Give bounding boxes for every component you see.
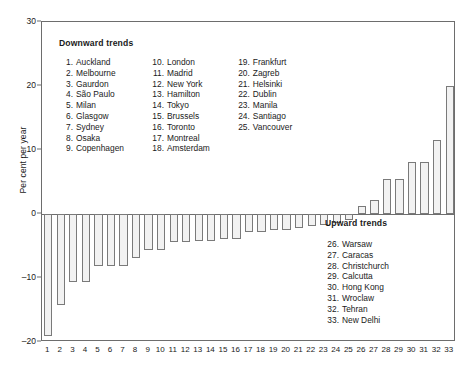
legend-item-label: Tokyo	[167, 100, 189, 110]
bar	[144, 214, 152, 250]
bar	[420, 162, 428, 214]
legend-item-label: Manila	[253, 100, 278, 110]
bar	[220, 214, 228, 239]
legend-item-number: 28.	[325, 261, 339, 272]
legend-item: 8.Osaka	[59, 133, 124, 144]
legend-upward-trends: Upward trends 26.Warsaw27.Caracas28.Chri…	[325, 218, 389, 325]
legend-item-number: 16.	[150, 122, 164, 133]
bar	[195, 214, 203, 241]
legend-item: 22.Dublin	[236, 89, 292, 100]
bar	[232, 214, 240, 239]
y-tick-label: 10	[0, 144, 36, 154]
legend-item-number: 33.	[325, 315, 339, 326]
x-tick-label: 11	[169, 345, 177, 354]
legend-item-number: 15.	[150, 111, 164, 122]
bar	[383, 179, 391, 214]
x-tick-label: 10	[156, 345, 165, 354]
legend-item: 13.Hamilton	[150, 89, 210, 100]
legend-item: 25.Vancouver	[236, 122, 292, 133]
x-tick-label: 31	[419, 345, 428, 354]
legend-item-number: 26.	[325, 239, 339, 250]
legend-item-number: 6.	[59, 111, 73, 122]
y-tick-label: –10	[0, 272, 36, 282]
legend-item: 4.São Paulo	[59, 89, 124, 100]
legend-item-number: 29.	[325, 271, 339, 282]
legend-item-label: Santiago	[253, 111, 286, 121]
bar	[170, 214, 178, 242]
x-tick-label: 17	[244, 345, 253, 354]
legend-item-number: 19.	[236, 57, 250, 68]
bar	[433, 140, 441, 214]
legend-item-number: 18.	[150, 143, 164, 154]
legend-item: 27.Caracas	[325, 250, 389, 261]
bar	[107, 214, 115, 266]
bar	[270, 214, 278, 230]
legend-item: 33.New Delhi	[325, 315, 389, 326]
y-tick-label: –20	[0, 336, 36, 346]
y-tick-label: 20	[0, 80, 36, 90]
x-tick-label: 28	[382, 345, 391, 354]
legend-item: 24.Santiago	[236, 111, 292, 122]
legend-item-label: Toronto	[167, 122, 195, 132]
legend-upward-title: Upward trends	[325, 218, 389, 228]
legend-item-number: 2.	[59, 68, 73, 79]
legend-item-number: 11.	[150, 68, 164, 79]
legend-item-number: 14.	[150, 100, 164, 111]
legend-item: 11.Madrid	[150, 68, 210, 79]
x-tick-label: 13	[193, 345, 202, 354]
x-tick-label: 29	[394, 345, 403, 354]
legend-item: 18.Amsterdam	[150, 143, 210, 154]
x-tick-label: 33	[444, 345, 453, 354]
legend-item-label: Copenhagen	[76, 143, 124, 153]
bar	[69, 214, 77, 282]
legend-item-number: 4.	[59, 89, 73, 100]
legend-item-number: 7.	[59, 122, 73, 133]
legend-item-label: Warsaw	[342, 239, 372, 249]
legend-item: 17.Montreal	[150, 133, 210, 144]
legend-item: 30.Hong Kong	[325, 282, 389, 293]
bar	[282, 214, 290, 230]
legend-item-label: Glasgow	[76, 111, 109, 121]
legend-item-number: 20.	[236, 68, 250, 79]
legend-item: 1.Auckland	[59, 57, 124, 68]
legend-item: 15.Brussels	[150, 111, 210, 122]
bar	[207, 214, 215, 241]
x-tick-label: 23	[319, 345, 328, 354]
legend-item-label: Hamilton	[167, 89, 200, 99]
legend-item-number: 13.	[150, 89, 164, 100]
legend-item: 23.Manila	[236, 100, 292, 111]
legend-item: 14.Tokyo	[150, 100, 210, 111]
x-tick-label: 25	[344, 345, 353, 354]
legend-item-label: Caracas	[342, 250, 373, 260]
x-tick-label: 15	[218, 345, 227, 354]
legend-item-label: Tehran	[342, 304, 368, 314]
legend-item-label: Auckland	[76, 57, 110, 67]
x-tick-label: 14	[206, 345, 215, 354]
legend-item-label: London	[167, 57, 195, 67]
legend-item-number: 27.	[325, 250, 339, 261]
x-tick-label: 20	[281, 345, 290, 354]
legend-item: 26.Warsaw	[325, 239, 389, 250]
legend-item: 29.Calcutta	[325, 271, 389, 282]
legend-item-label: Madrid	[167, 68, 193, 78]
x-tick-label: 12	[181, 345, 190, 354]
legend-item-label: Osaka	[76, 133, 100, 143]
legend-downward-title: Downward trends	[59, 38, 292, 48]
bar	[44, 214, 52, 336]
legend-item-number: 25.	[236, 122, 250, 133]
bar	[245, 214, 253, 232]
legend-item-label: Frankfurt	[253, 57, 287, 67]
legend-item-label: Calcutta	[342, 271, 373, 281]
x-tick-label: 27	[369, 345, 378, 354]
legend-item: 3.Gaurdon	[59, 79, 124, 90]
legend-item-label: Vancouver	[253, 122, 292, 132]
bar	[370, 200, 378, 214]
legend-item-label: Wroclaw	[342, 293, 374, 303]
x-tick-label: 4	[83, 345, 87, 354]
x-tick-label: 26	[356, 345, 365, 354]
legend-item-label: Amsterdam	[167, 143, 210, 153]
bar	[308, 214, 316, 226]
legend-item-number: 21.	[236, 79, 250, 90]
bar	[82, 214, 90, 282]
x-tick-label: 22	[306, 345, 315, 354]
